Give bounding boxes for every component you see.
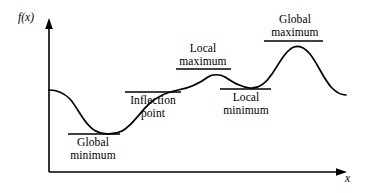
annotation-global-maximum-line1: Global	[253, 13, 337, 26]
annotation-inflection-point-line2: point	[121, 107, 185, 120]
annotation-local-maximum-line2: maximum	[165, 55, 241, 68]
annotation-local-maximum-line1: Local	[165, 42, 241, 55]
annotation-global-minimum: Global minimum	[53, 136, 133, 161]
annotation-inflection-point: Inflection point	[121, 94, 185, 119]
annotation-local-minimum: Local minimum	[210, 91, 282, 116]
annotation-local-maximum: Local maximum	[165, 42, 241, 67]
y-axis-arrowhead	[45, 18, 53, 29]
annotation-global-maximum-line2: maximum	[253, 26, 337, 39]
function-critical-points-figure: f(x) x Global minimum Inflection point L…	[0, 0, 367, 193]
y-axis-label: f(x)	[18, 11, 34, 23]
annotation-global-minimum-line2: minimum	[53, 149, 133, 162]
annotation-local-minimum-line2: minimum	[210, 104, 282, 117]
annotation-global-minimum-line1: Global	[53, 136, 133, 149]
annotation-global-maximum: Global maximum	[253, 13, 337, 38]
annotation-inflection-point-line1: Inflection	[121, 94, 185, 107]
x-axis-label: x	[345, 172, 350, 184]
annotation-local-minimum-line1: Local	[210, 91, 282, 104]
